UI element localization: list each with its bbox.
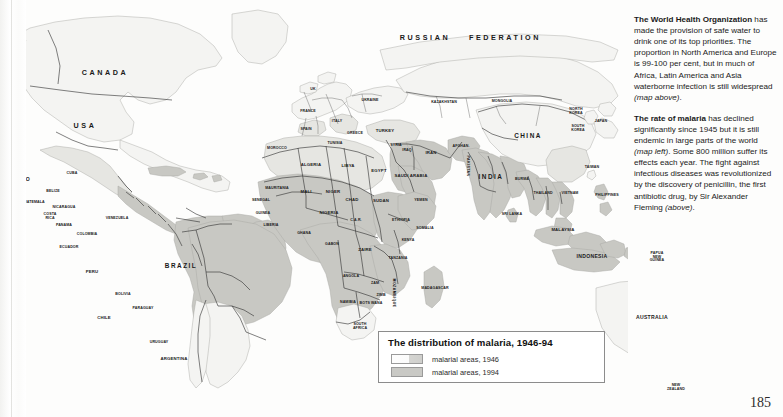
- legend-label-1946: malarial areas, 1946: [432, 355, 499, 364]
- map-label: PAPUANEWGUINEA: [650, 252, 665, 263]
- sidebar-text-column: The World Health Organization has made t…: [634, 6, 778, 223]
- page-gutter-line: [11, 0, 12, 417]
- legend-title: The distribution of malaria, 1946-94: [388, 337, 553, 348]
- map-label: AUSTRALIA: [636, 315, 668, 320]
- legend-swatch-1994: [391, 367, 423, 377]
- magazine-page: .land { fill:#f4f4f2; stroke:#a8a8a4; st…: [0, 0, 783, 417]
- map-label: NEWZEALAND: [667, 384, 685, 391]
- paragraph-malaria-citation-above: (above): [665, 203, 692, 212]
- paragraph-who: The World Health Organization has made t…: [634, 14, 778, 103]
- paragraph-malaria-end: .: [693, 203, 695, 212]
- legend-entry-1946: malarial areas, 1946: [391, 354, 499, 364]
- page-number: 185: [750, 395, 771, 411]
- paragraph-malaria-citation-map: (map left): [634, 147, 668, 156]
- legend-swatch-1946: [391, 354, 423, 364]
- legend-label-1994: malarial areas, 1994: [432, 368, 499, 377]
- paragraph-malaria-lead: The rate of malaria: [634, 114, 706, 123]
- paragraph-who-end: .: [679, 93, 681, 102]
- paragraph-malaria: The rate of malaria has declined signifi…: [634, 113, 778, 213]
- paragraph-who-citation: (map above): [634, 93, 679, 102]
- paragraph-who-body: has made the provision of safe water to …: [634, 15, 777, 91]
- paragraph-who-lead: The World Health Organization: [634, 15, 752, 24]
- legend-entry-1994: malarial areas, 1994: [391, 367, 499, 377]
- map-legend: The distribution of malaria, 1946-94 mal…: [378, 331, 605, 383]
- paragraph-malaria-body2: . Some 800 million suffer its effects ea…: [634, 147, 771, 211]
